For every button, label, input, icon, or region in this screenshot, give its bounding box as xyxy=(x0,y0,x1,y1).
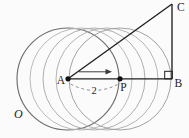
point-label-A: A xyxy=(57,74,66,86)
geometry-figure: APBCO2 xyxy=(0,0,189,138)
distance-label: 2 xyxy=(91,85,96,96)
point-label-B: B xyxy=(175,77,183,89)
point-dot-A xyxy=(65,76,70,81)
point-label-P: P xyxy=(120,81,126,93)
geometry-diagram: APBCO2 xyxy=(0,0,189,138)
point-label-C: C xyxy=(177,1,185,13)
translation-arrow-head-icon xyxy=(106,69,113,74)
circle-label-O: O xyxy=(14,107,23,121)
